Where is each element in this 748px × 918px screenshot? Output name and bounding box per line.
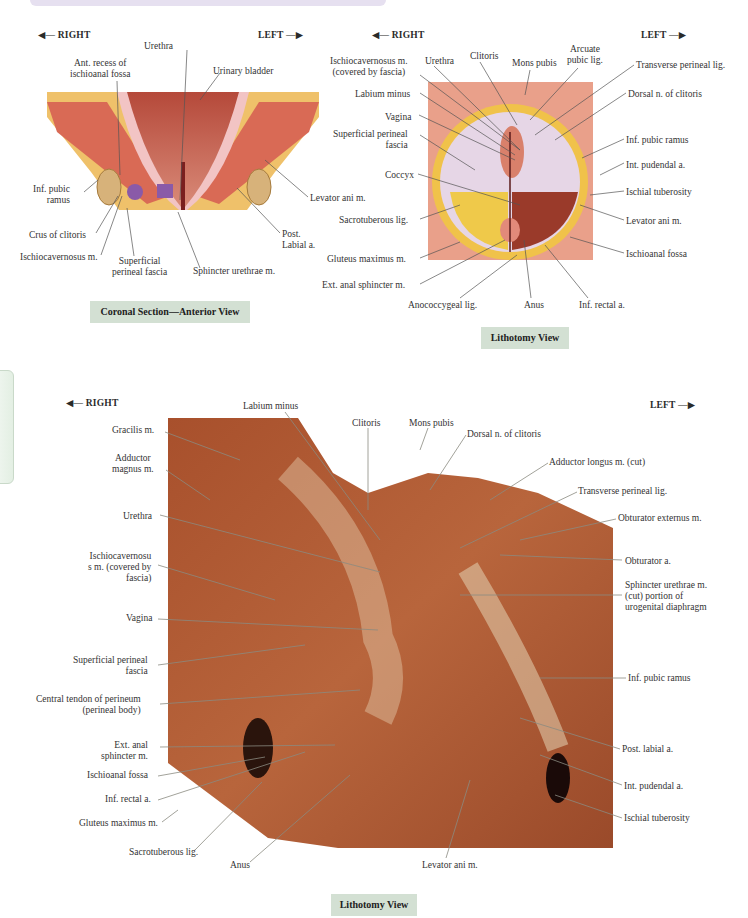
arrow-right-icon: —▶ xyxy=(286,30,303,40)
label-gluteus-2: Gluteus maximus m. xyxy=(327,254,406,265)
label-vagina-3: Vagina xyxy=(126,613,152,624)
label-anus-3: Anus xyxy=(230,860,250,871)
label-adductor-magnus: Adductor magnus m. xyxy=(112,453,154,475)
side-tab[interactable] xyxy=(0,370,14,484)
direction-right: ◀— RIGHT xyxy=(38,29,90,40)
label-urinary-bladder: Urinary bladder xyxy=(213,66,273,77)
label-levator-ani-3: Levator ani m. xyxy=(422,860,478,871)
label-levator-ani: Levator ani m. xyxy=(310,193,366,204)
label-ext-anal-3: Ext. anal sphincter m. xyxy=(101,740,148,762)
label-post-labial: Post. Labial a. xyxy=(282,229,315,251)
label-dorsal-n-2: Dorsal n. of clitoris xyxy=(628,89,702,100)
label-inf-pubic-ramus: Inf. pubic ramus xyxy=(33,184,70,206)
label-ischiocavernosus: Ischiocavernosus m. xyxy=(20,252,98,263)
label-coccyx-2: Coccyx xyxy=(385,170,414,181)
label-labium-minus-3: Labium minus xyxy=(243,401,298,412)
direction-right-3: ◀— RIGHT xyxy=(66,397,118,408)
label-vagina-2: Vagina xyxy=(385,112,411,123)
arrow-left-icon: ◀— xyxy=(38,30,55,40)
label-ant-recess: Ant. recess of ischioanal fossa xyxy=(70,58,130,80)
label-urethra: Urethra xyxy=(144,41,173,52)
arrow-left-icon: ◀— xyxy=(372,30,389,40)
label-ischioanal-3: Ischioanal fossa xyxy=(87,770,148,781)
label-superficial-fascia-2: Superficial perineal fascia xyxy=(333,129,408,151)
label-gluteus-3: Gluteus maximus m. xyxy=(79,818,158,829)
label-post-labial-3: Post. labial a. xyxy=(622,744,673,755)
label-ischioanal-2: Ischioanal fossa xyxy=(626,249,687,260)
label-obturator-a: Obturator a. xyxy=(625,556,671,567)
caption-coronal: Coronal Section—Anterior View xyxy=(90,301,250,323)
label-sphincter-urethrae-3: Sphincter urethrae m. (cut) portion of u… xyxy=(625,580,707,613)
arrow-left-icon: ◀— xyxy=(66,398,83,408)
direction-left-3: LEFT —▶ xyxy=(650,399,695,410)
label-dorsal-n-3: Dorsal n. of clitoris xyxy=(467,429,541,440)
label-central-tendon: Central tendon of perineum (perineal bod… xyxy=(36,694,141,716)
label-urethra-3: Urethra xyxy=(123,511,152,522)
lithotomy-illustration xyxy=(428,82,593,260)
label-inf-pubic-ramus-3: Inf. pubic ramus xyxy=(628,673,691,684)
direction-left-2: LEFT —▶ xyxy=(641,29,686,40)
label-ext-anal-2: Ext. anal sphincter m. xyxy=(322,280,405,291)
label-ischial-tuberosity-2: Ischial tuberosity xyxy=(626,187,692,198)
label-superficial-fascia: Superficial perineal fascia xyxy=(112,256,167,278)
arrow-right-icon: —▶ xyxy=(669,30,686,40)
label-anus-2: Anus xyxy=(524,300,544,311)
label-clitoris-2: Clitoris xyxy=(470,51,499,62)
label-sacrotuberous-2: Sacrotuberous lig. xyxy=(339,215,408,226)
label-levator-ani-2: Levator ani m. xyxy=(626,216,682,227)
top-band xyxy=(30,0,386,6)
caption-lithotomy-illustration: Lithotomy View xyxy=(481,327,569,349)
label-ischiocavernosus-2: Ischiocavernosus m. (covered by fascia) xyxy=(330,56,408,78)
direction-right-2: ◀— RIGHT xyxy=(372,29,424,40)
arrow-right-icon: —▶ xyxy=(678,400,695,410)
label-arcuate-lig: Arcuate pubic lig. xyxy=(567,44,603,66)
label-urethra-2: Urethra xyxy=(425,56,454,67)
label-labium-minus-2: Labium minus xyxy=(355,89,410,100)
label-sphincter-urethrae: Sphincter urethrae m. xyxy=(193,266,275,277)
label-ischial-tuberosity-3: Ischial tuberosity xyxy=(624,813,690,824)
label-crus-clitoris: Crus of clitoris xyxy=(29,230,86,241)
label-transverse-perineal-3: Transverse perineal lig. xyxy=(578,486,667,497)
direction-left: LEFT —▶ xyxy=(258,29,303,40)
label-clitoris-3: Clitoris xyxy=(352,418,381,429)
label-transverse-perineal-2: Transverse perineal lig. xyxy=(636,60,725,71)
label-int-pudendal-2: Int. pudendal a. xyxy=(626,160,685,171)
label-ischiocavernosus-3: Ischiocavernosu s m. (covered by fascia) xyxy=(88,551,151,584)
lithotomy-dissection-photo xyxy=(168,418,613,848)
label-inf-rectal-3: Inf. rectal a. xyxy=(105,794,151,805)
label-mons-pubis-2: Mons pubis xyxy=(512,58,557,69)
label-int-pudendal-3: Int. pudendal a. xyxy=(624,781,683,792)
caption-lithotomy-photo: Lithotomy View xyxy=(331,894,417,916)
label-anococcygeal: Anococcygeal lig. xyxy=(408,300,477,311)
coronal-section-illustration xyxy=(47,92,319,210)
label-sacrotuberous-3: Sacrotuberous lig. xyxy=(129,847,198,858)
label-inf-rectal-2: Inf. rectal a. xyxy=(579,300,625,311)
label-adductor-longus: Adductor longus m. (cut) xyxy=(549,457,645,468)
label-mons-pubis-3: Mons pubis xyxy=(409,418,454,429)
label-obturator-externus: Obturator externus m. xyxy=(618,513,702,524)
label-gracilis: Gracilis m. xyxy=(112,425,154,436)
label-superficial-fascia-3: Superficial perineal fascia xyxy=(73,655,148,677)
label-inf-pubic-ramus-2: Inf. pubic ramus xyxy=(626,135,689,146)
